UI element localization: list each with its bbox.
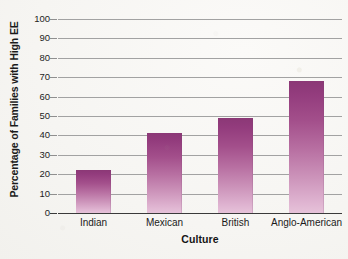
x-tick-label: British [200, 216, 271, 230]
y-axis-tick [50, 77, 57, 78]
gridline [58, 58, 342, 59]
plot-area [58, 19, 342, 213]
y-tick-label: 60 [24, 92, 50, 102]
bar [289, 81, 324, 213]
x-tick-label: Indian [58, 216, 129, 230]
y-tick-label: 100 [24, 14, 50, 24]
y-axis-tick [50, 38, 57, 39]
y-tick-label: 30 [24, 150, 50, 160]
y-tick-label: 10 [24, 189, 50, 199]
y-tick-label: 70 [24, 72, 50, 82]
y-axis-tick [50, 19, 57, 20]
y-tick-label: 80 [24, 53, 50, 63]
x-axis-tick-labels: Indian Mexican British Anglo-American [58, 216, 342, 232]
y-axis-tick [50, 97, 57, 98]
gridline [58, 19, 342, 20]
y-tick-label: 0 [24, 208, 50, 218]
y-axis-tick [50, 213, 57, 214]
bar [218, 118, 253, 213]
y-axis-tick [50, 174, 57, 175]
y-axis-tick [50, 116, 57, 117]
x-tick-label: Mexican [129, 216, 200, 230]
bar [147, 133, 182, 213]
gridline [58, 77, 342, 78]
x-axis-title: Culture [58, 233, 342, 245]
y-tick-label: 50 [24, 111, 50, 121]
y-tick-label: 40 [24, 130, 50, 140]
y-axis-tick [50, 194, 57, 195]
y-axis-title: Percentage of Families with High EE [6, 3, 22, 216]
x-axis-line [58, 213, 342, 214]
y-axis-tick [50, 155, 57, 156]
gridline [58, 38, 342, 39]
y-axis-tick [50, 135, 57, 136]
bar-chart: Percentage of Families with High EE 100 … [0, 0, 348, 259]
x-tick-label: Anglo-American [271, 216, 342, 230]
y-axis-tick-labels: 100 90 80 70 60 50 40 30 20 10 0 [22, 19, 50, 213]
bar [76, 170, 111, 213]
y-axis-tick [50, 58, 57, 59]
y-tick-label: 20 [24, 169, 50, 179]
y-tick-label: 90 [24, 33, 50, 43]
